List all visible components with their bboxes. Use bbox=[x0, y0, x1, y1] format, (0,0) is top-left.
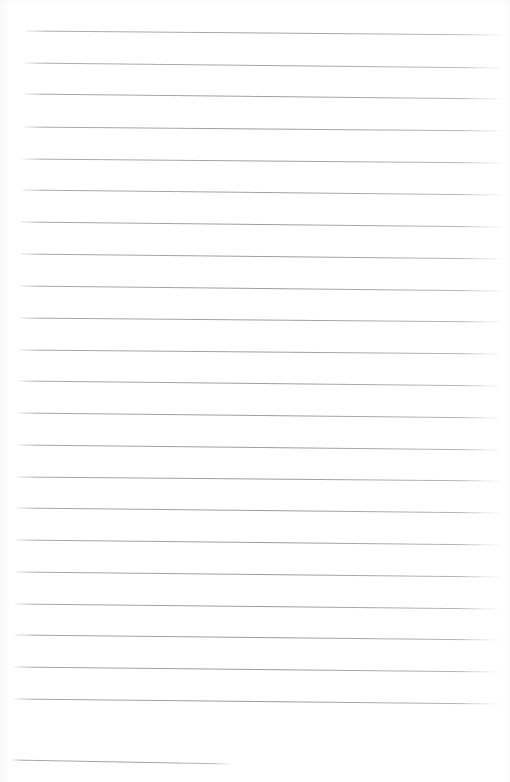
writing-area[interactable] bbox=[0, 0, 510, 782]
paper-sheet bbox=[0, 0, 510, 782]
scanned-page bbox=[0, 0, 510, 782]
